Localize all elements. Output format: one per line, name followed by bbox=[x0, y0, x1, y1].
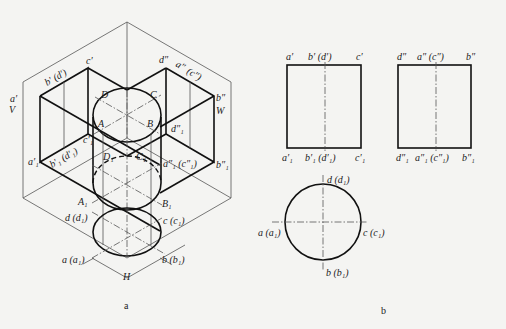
side-view-rectangle bbox=[398, 65, 471, 148]
plane-label-w: W bbox=[216, 105, 226, 116]
label-b-prime-d-prime: b′ (d′) bbox=[43, 66, 70, 88]
projection-drawing: a′ V b′ (d′) c′ d″ a″ (c″) b″ W D C A B … bbox=[0, 0, 506, 329]
label-B: B bbox=[147, 118, 153, 129]
caption-b: b bbox=[381, 305, 386, 316]
label-a-prime: a′ bbox=[10, 93, 18, 104]
front-top-label-a: a′ bbox=[286, 51, 294, 62]
label-b1-dprime: b″₁ bbox=[216, 159, 229, 170]
label-c1-prime: c′₁ bbox=[83, 134, 93, 145]
label-C: C bbox=[150, 89, 157, 100]
projector-d-top bbox=[127, 68, 166, 90]
top-view-label-a: a (a₁) bbox=[258, 227, 281, 239]
plane-label-h: H bbox=[122, 271, 131, 282]
label-b-dprime: b″ bbox=[216, 92, 226, 103]
front-bottom-label-b1-d1: b′₁ (d′₁) bbox=[305, 152, 336, 164]
label-a1-prime: a′₁ bbox=[28, 156, 39, 167]
label-d-d1: d (d₁) bbox=[65, 212, 88, 224]
front-bottom-label-a1: a′₁ bbox=[282, 152, 293, 163]
top-view-label-d: d (d₁) bbox=[327, 174, 350, 186]
label-d1-dprime: d″₁ bbox=[171, 123, 184, 134]
side-top-label-d: d″ bbox=[397, 51, 407, 62]
top-view-label-c: c (c₁) bbox=[363, 227, 385, 239]
isometric-view: a′ V b′ (d′) c′ d″ a″ (c″) b″ W D C A B … bbox=[9, 22, 231, 311]
label-a-dprime: a″ bbox=[174, 58, 188, 73]
label-A1: A₁ bbox=[77, 196, 88, 207]
projector-b-top bbox=[160, 96, 214, 127]
label-D: D bbox=[100, 89, 109, 100]
label-b-b1: b (b₁) bbox=[162, 254, 185, 266]
cylinder-projection-figure: a′ V b′ (d′) c′ d″ a″ (c″) b″ W D C A B … bbox=[0, 0, 506, 329]
front-bottom-label-c1: c′₁ bbox=[355, 152, 365, 163]
side-top-label-a-c: a″ (c″) bbox=[417, 51, 445, 63]
front-view-rectangle bbox=[287, 65, 361, 148]
label-a1-dprime-c1-dprime: a″₁ (c″₁) bbox=[163, 158, 198, 170]
front-top-label-c: c′ bbox=[356, 51, 363, 62]
projector-a-bottom bbox=[40, 162, 160, 231]
side-top-label-b: b″ bbox=[466, 51, 476, 62]
label-c-prime: c′ bbox=[86, 55, 93, 66]
plane-label-v: V bbox=[9, 104, 17, 115]
caption-a: a bbox=[124, 300, 129, 311]
h-extension-left bbox=[83, 258, 94, 264]
orthographic-views: a′ b′ (d′) c′ a′₁ b′₁ (d′₁) c′₁ d″ a″ (c… bbox=[258, 51, 476, 316]
front-top-label-b-d: b′ (d′) bbox=[308, 51, 332, 63]
side-bottom-label-a1-c1: a″₁ (c″₁) bbox=[415, 152, 450, 164]
label-a-a1: a (a₁) bbox=[62, 254, 85, 266]
label-D1: D₁ bbox=[102, 151, 114, 162]
label-C1: C₁ bbox=[136, 151, 146, 162]
side-bottom-label-b1: b″₁ bbox=[462, 152, 475, 163]
label-A: A bbox=[97, 118, 105, 129]
h-plane-edge-left bbox=[92, 258, 127, 278]
top-view-label-b: b (b₁) bbox=[326, 267, 349, 279]
side-bottom-label-d1: d″₁ bbox=[396, 152, 409, 163]
label-c-c1: c (c₁) bbox=[163, 215, 185, 227]
label-d-dprime: d″ bbox=[159, 54, 169, 65]
label-B1: B₁ bbox=[162, 198, 172, 209]
projector-c-top bbox=[88, 68, 127, 90]
